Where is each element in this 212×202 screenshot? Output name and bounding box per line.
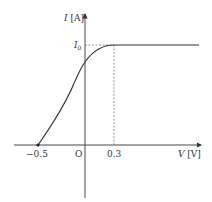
y-axis-label: I [A] <box>63 13 84 23</box>
iv-curve <box>38 45 199 145</box>
tick-neg-half: −0.5 <box>26 149 48 159</box>
tick-0-3: 0.3 <box>107 149 122 159</box>
iv-chart: −0.5 O 0.3 V [V] I [A] I0 <box>0 0 212 202</box>
stopping-voltage-point <box>36 143 39 146</box>
origin-label: O <box>75 149 82 159</box>
i0-label: I0 <box>73 40 82 51</box>
x-axis-label: V [V] <box>178 149 201 159</box>
